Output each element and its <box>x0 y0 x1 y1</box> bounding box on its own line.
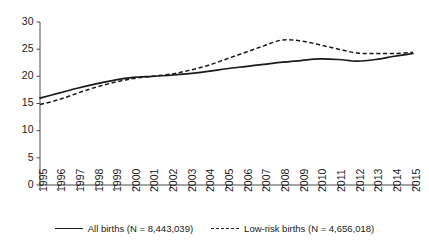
x-axis-tick-label: 2010 <box>316 168 328 192</box>
chart-legend: All births (N = 8,443,039)Low-risk birth… <box>0 223 429 234</box>
x-axis-tick-label: 2015 <box>410 168 422 192</box>
line-chart-svg: 051015202530 199519961997199819992000200… <box>0 0 429 246</box>
x-axis-tick-label: 2005 <box>223 168 235 192</box>
x-axis-tick-label: 2008 <box>279 168 291 192</box>
x-axis-tick-label: 2011 <box>335 169 347 192</box>
x-axis: 1995199619971998199920002001200220032004… <box>37 168 422 192</box>
x-axis-tick-label: 2006 <box>242 168 254 192</box>
legend-swatch-dashed-icon <box>211 228 239 229</box>
y-axis-tick-label: 20 <box>22 69 34 81</box>
data-series-group <box>40 40 413 105</box>
legend-swatch-solid-icon <box>55 228 83 229</box>
y-axis-tick-label: 5 <box>28 151 34 163</box>
y-axis-tick-label: 15 <box>22 96 34 108</box>
series-line-all-births <box>40 54 413 99</box>
x-axis-tick-label: 2000 <box>130 168 142 192</box>
series-line-low-risk-births <box>40 40 413 105</box>
x-axis-tick-label: 2004 <box>204 168 216 192</box>
y-axis-tick-label: 0 <box>28 178 34 190</box>
x-axis-tick-label: 1995 <box>37 168 49 192</box>
legend-label: All births (N = 8,443,039) <box>88 223 193 234</box>
legend-item[interactable]: Low-risk births (N = 4,656,018) <box>211 223 374 234</box>
x-axis-tick-label: 2003 <box>186 168 198 192</box>
x-axis-tick-label: 2001 <box>148 168 160 192</box>
x-axis-tick-label: 2014 <box>391 168 403 192</box>
x-axis-tick-label: 1999 <box>111 168 123 192</box>
x-axis-tick-label: 1997 <box>74 168 86 192</box>
y-axis-tick-label: 25 <box>22 42 34 54</box>
x-axis-tick-label: 2007 <box>260 168 272 192</box>
x-axis-tick-label: 2009 <box>298 168 310 192</box>
legend-label: Low-risk births (N = 4,656,018) <box>244 223 374 234</box>
x-axis-tick-label: 2002 <box>167 168 179 192</box>
y-axis-tick-label: 30 <box>22 15 34 27</box>
y-axis-tick-label: 10 <box>22 123 34 135</box>
x-axis-tick-label: 2012 <box>354 168 366 192</box>
y-axis: 051015202530 <box>22 15 40 190</box>
chart-container: 051015202530 199519961997199819992000200… <box>0 0 429 246</box>
x-axis-tick-label: 1998 <box>93 168 105 192</box>
x-axis-tick-label: 1996 <box>55 168 67 192</box>
x-axis-tick-label: 2013 <box>372 168 384 192</box>
legend-item[interactable]: All births (N = 8,443,039) <box>55 223 193 234</box>
